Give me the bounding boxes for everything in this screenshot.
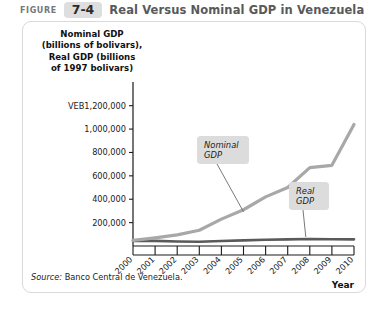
y-axis-tick-label: 600,000 [92,171,126,181]
nominal-gdp-callout-label-line-2: GDP [204,150,223,160]
y-axis-tick-label: 200,000 [92,218,126,228]
x-axis-year-label: 2004 [201,254,223,276]
figure-title: Real Versus Nominal GDP in Venezuela [109,3,364,17]
y-axis-tick-label: 1,000,000 [84,124,126,134]
x-axis-year-label: 2010 [334,254,356,276]
real-gdp-callout-label-line-2: GDP [296,196,315,206]
y-axis-tick-label: VEB1,200,000 [68,101,126,111]
y-axis-tick-label: 800,000 [92,147,126,157]
gdp-line-chart: VEB1,200,0001,000,000800,000600,000400,0… [23,22,365,292]
real-gdp-line [133,239,354,242]
nominal-gdp-callout-label-line-1: Nominal [204,140,239,150]
plot-area: VEB1,200,0001,000,000800,000600,000400,0… [23,22,365,292]
nominal-gdp-callout-leader-line [217,164,244,212]
x-axis-year-label: 2005 [223,254,245,276]
real-gdp-callout-label-line-1: Real [296,186,315,196]
x-axis-year-label: 2009 [312,254,334,276]
x-axis-year-label: 2007 [267,254,289,276]
figure-container: FIGURE 7-4 Real Versus Nominal GDP in Ve… [0,0,376,313]
figure-header: FIGURE 7-4 Real Versus Nominal GDP in Ve… [0,0,376,20]
figure-number-badge: 7-4 [64,2,103,18]
x-axis-year-label: 2008 [289,254,311,276]
figure-card: Nominal GDP (billions of bolivars), Real… [22,21,366,293]
x-axis-year-label: 2006 [245,254,267,276]
x-axis-name: Year [331,280,355,290]
source-note: Source: Banco Central de Venezuela. [31,272,183,282]
source-text: Banco Central de Venezuela. [62,272,182,282]
real-gdp-callout-leader-line [303,210,306,237]
source-label: Source: [31,272,62,282]
y-axis-tick-label: 400,000 [92,194,126,204]
figure-word-label: FIGURE [20,6,57,15]
